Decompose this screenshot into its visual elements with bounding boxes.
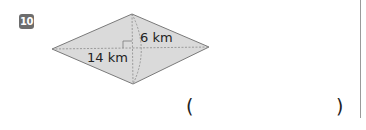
column-divider: [360, 0, 361, 118]
answer-close-paren: ): [336, 95, 343, 117]
answer-open-paren: (: [186, 95, 193, 117]
short-diagonal-label: 6 km: [140, 30, 173, 45]
rhombus-shape: [52, 14, 209, 84]
long-diagonal-label: 14 km: [87, 50, 128, 65]
rhombus-figure: 6 km 14 km: [0, 0, 366, 130]
